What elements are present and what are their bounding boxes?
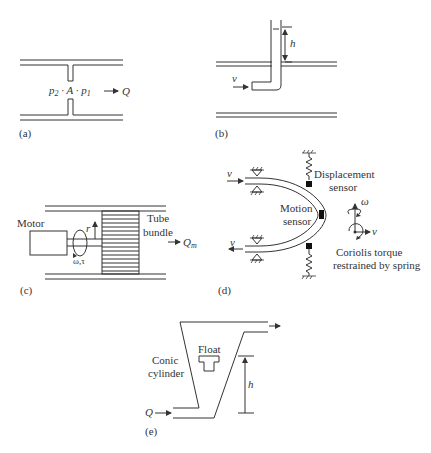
motion-sensor-block (319, 210, 324, 219)
rotation-arrow (73, 230, 87, 256)
height-label: h (248, 378, 254, 390)
support-bottom (250, 235, 264, 263)
motion-sensor-label-line1: Motion (280, 202, 313, 214)
flow-label: Qm (183, 236, 197, 250)
conic-cylinder-label-line1: Conic (152, 354, 178, 366)
pipe-wall-top (20, 60, 123, 81)
float-shape (199, 356, 219, 371)
spring-bottom (302, 249, 316, 279)
pitot-tube (252, 20, 281, 90)
panel-label-a: (a) (19, 127, 32, 140)
tube-bundle-label-line1: Tube (147, 212, 169, 224)
support-top (250, 167, 264, 195)
motor-label: Motor (17, 217, 45, 229)
panel-b: h v (b) (215, 20, 337, 140)
panel-e: Float Conic cylinder h Q (e) (145, 322, 280, 438)
velocity-label: v (232, 72, 237, 84)
velocity-in-label: v (227, 167, 232, 179)
velocity-out-label: v (230, 236, 235, 248)
pressure-equation: p2 · A · p1 (48, 84, 91, 98)
panel-label-e: (e) (145, 425, 158, 438)
flowmeter-figure: p2 · A · p1 Q (a) h v (b) Motor ω,τ (0, 0, 431, 453)
panel-label-b: (b) (215, 127, 228, 140)
panel-label-c: (c) (20, 284, 33, 297)
float-label: Float (198, 343, 221, 355)
height-label: h (290, 37, 296, 49)
omega-tau-label: ω,τ (73, 256, 85, 266)
conic-cylinder-left-wall (173, 322, 268, 408)
panel-d: v v (218, 150, 421, 297)
omega-label: ω (361, 195, 369, 207)
displacement-sensor-block (306, 181, 312, 187)
panel-c: Motor ω,τ r Tube bundle Qm (c) (17, 206, 197, 297)
axis-v-label: v (372, 225, 377, 237)
panel-a: p2 · A · p1 Q (a) (19, 60, 130, 140)
flow-label: Q (122, 85, 130, 97)
coriolis-axes-icon: ω v (348, 195, 377, 240)
conic-cylinder-label-line2: cylinder (148, 367, 184, 379)
coriolis-label-line2: restrained by spring (333, 259, 421, 271)
motion-sensor-label-line2: sensor (283, 215, 311, 227)
tube-bundle-label-line2: bundle (143, 226, 173, 238)
flow-label: Q (145, 406, 153, 418)
displacement-sensor-label-line2: sensor (329, 181, 357, 193)
coriolis-label-line1: Coriolis torque (336, 246, 402, 258)
radius-label: r (86, 222, 91, 234)
pipe-wall-bottom (20, 99, 123, 120)
tube-bundle (102, 211, 139, 274)
motor-box (30, 231, 67, 255)
lower-sensor-block (306, 243, 312, 249)
displacement-sensor-label-line1: Displacement (314, 168, 374, 180)
panel-label-d: (d) (218, 284, 231, 297)
